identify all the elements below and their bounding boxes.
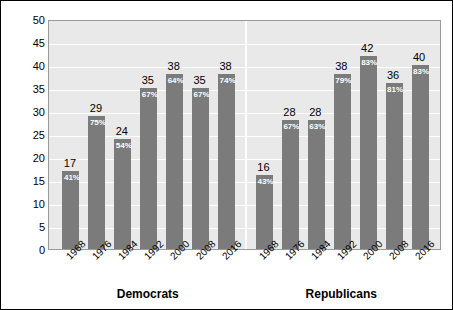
bar-chart: Number of states 50454035302520151050 17… <box>0 0 453 310</box>
bar-percent-label: 67% <box>191 90 213 99</box>
bar-percent-label: 54% <box>113 141 135 150</box>
bar-value-label: 29 <box>83 103 109 114</box>
bar[interactable] <box>218 74 235 249</box>
bar-value-label: 16 <box>250 162 276 173</box>
y-tick-label: 15 <box>19 176 45 187</box>
bar-percent-label: 67% <box>139 90 161 99</box>
bar[interactable] <box>386 83 403 249</box>
bar-percent-label: 67% <box>280 122 302 131</box>
bar-value-label: 42 <box>354 43 380 54</box>
bar[interactable] <box>88 116 105 249</box>
bar-value-label: 28 <box>276 107 302 118</box>
bar-percent-label: 63% <box>306 122 328 131</box>
y-tick-label: 25 <box>19 130 45 141</box>
plot-inner <box>49 21 440 249</box>
y-tick-label: 10 <box>19 199 45 210</box>
y-tick-label: 50 <box>19 15 45 26</box>
bar[interactable] <box>192 88 209 249</box>
y-tick-label: 45 <box>19 38 45 49</box>
bar-percent-label: 64% <box>165 76 187 85</box>
bar[interactable] <box>282 120 299 249</box>
bar-value-label: 24 <box>109 126 135 137</box>
y-tick-label: 5 <box>19 222 45 233</box>
bar[interactable] <box>308 120 325 249</box>
bar-value-label: 35 <box>135 75 161 86</box>
bar-value-label: 38 <box>161 61 187 72</box>
bar-percent-label: 43% <box>254 177 276 186</box>
group-label: Republicans <box>281 287 401 301</box>
y-tick-label: 35 <box>19 84 45 95</box>
bar-value-label: 38 <box>328 61 354 72</box>
bar-value-label: 28 <box>302 107 328 118</box>
y-tick-label: 40 <box>19 61 45 72</box>
bar[interactable] <box>140 88 157 249</box>
bar-percent-label: 75% <box>87 118 109 127</box>
y-tick-label: 20 <box>19 153 45 164</box>
plot-area <box>48 20 441 250</box>
bar-percent-label: 41% <box>61 173 83 182</box>
bar-value-label: 35 <box>187 75 213 86</box>
bar-percent-label: 83% <box>358 58 380 67</box>
group-separator <box>245 21 247 249</box>
bar[interactable] <box>166 74 183 249</box>
bar-percent-label: 83% <box>410 67 432 76</box>
bar-value-label: 40 <box>406 52 432 63</box>
group-label: Democrats <box>88 287 208 301</box>
bar-percent-label: 74% <box>217 76 239 85</box>
bar[interactable] <box>360 56 377 249</box>
y-tick-label: 30 <box>19 107 45 118</box>
bar[interactable] <box>256 175 273 249</box>
bar[interactable] <box>412 65 429 249</box>
bar-value-label: 38 <box>213 61 239 72</box>
bar-percent-label: 81% <box>384 85 406 94</box>
bar-value-label: 17 <box>57 158 83 169</box>
bar-value-label: 36 <box>380 70 406 81</box>
bar[interactable] <box>62 171 79 249</box>
bar[interactable] <box>334 74 351 249</box>
bar-percent-label: 79% <box>332 76 354 85</box>
y-tick-label: 0 <box>19 245 45 256</box>
y-axis-tick-labels: 50454035302520151050 <box>15 20 45 250</box>
bar[interactable] <box>114 139 131 249</box>
